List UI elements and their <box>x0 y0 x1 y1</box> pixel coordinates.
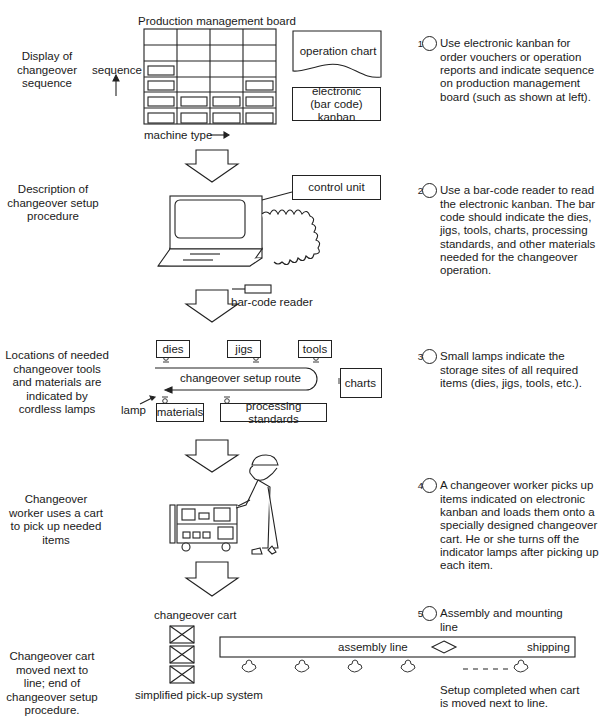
lamp-label: lamp <box>121 404 146 417</box>
board-x-axis-label: machine type <box>144 129 212 142</box>
kanban-box: electronic (bar code) kanban <box>292 87 381 121</box>
bar-code-reader-label: bar-code reader <box>231 296 313 309</box>
storage-materials: materials <box>156 403 204 422</box>
control-unit-box: control unit <box>292 175 381 200</box>
board-y-axis-label: sequence <box>92 64 142 77</box>
pickup-system-boxes <box>170 626 194 683</box>
storage-tools: tools <box>298 340 332 358</box>
storage-jigs: jigs <box>227 340 261 358</box>
board-title: Production management board <box>138 15 296 28</box>
storage-processing-standards: processing standards <box>220 403 327 422</box>
shipping-label: shipping <box>527 641 570 654</box>
computer-terminal-drawing <box>158 192 320 293</box>
workstation-icons <box>242 660 528 672</box>
pickup-system-label: simplified pick-up system <box>135 689 263 702</box>
operation-chart-label: operation chart <box>298 45 378 58</box>
assembly-line-label: assembly line <box>338 641 408 654</box>
production-board-grid <box>144 29 276 124</box>
worker-with-cart-drawing <box>170 455 278 554</box>
storage-dies: dies <box>156 340 190 358</box>
route-label: changeover setup route <box>180 372 301 385</box>
changeover-cart-label: changeover cart <box>154 609 236 622</box>
setup-completed-note: Setup completed when cart is moved next … <box>440 684 582 710</box>
storage-charts: charts <box>340 368 382 398</box>
